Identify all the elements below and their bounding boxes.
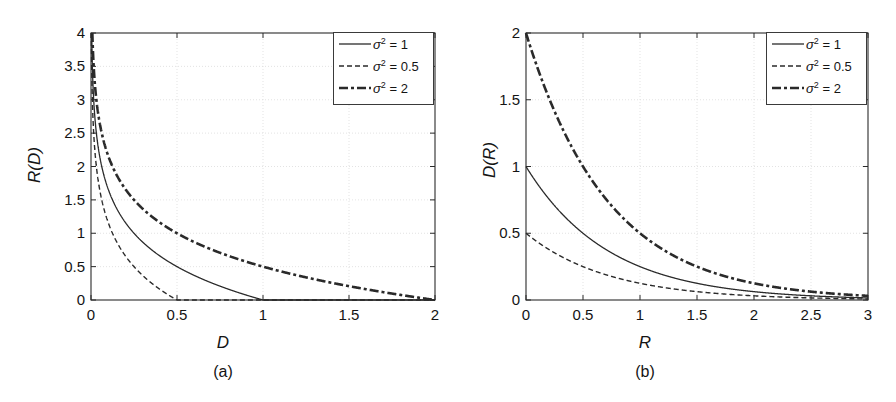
y-tick-label: 1.5 [478, 91, 520, 108]
panel-b: D(R) R (b) σ2 = 1σ2 = 0.5σ2 = 2 00.511.5… [448, 0, 896, 402]
legend-line-swatch [338, 37, 372, 51]
y-axis-label-a: R(D) [25, 125, 45, 205]
legend-value: = 0.5 [819, 59, 852, 74]
sigma-symbol: σ [373, 37, 381, 52]
legend-value: = 1 [386, 37, 408, 52]
legend-value: = 2 [819, 81, 841, 96]
legend-item: σ2 = 2 [334, 77, 433, 99]
legend-label: σ2 = 2 [806, 80, 841, 96]
y-tick-label: 0.5 [478, 224, 520, 241]
x-tick-label: 2.5 [786, 306, 836, 323]
legend-line-swatch [771, 37, 805, 51]
x-axis-label-b: R [605, 333, 685, 353]
legend-item: σ2 = 0.5 [334, 55, 433, 77]
sigma-symbol: σ [373, 81, 381, 96]
x-tick-label: 1 [615, 306, 665, 323]
y-tick-label: 1.5 [43, 191, 85, 208]
legend-value: = 0.5 [386, 59, 419, 74]
legend-label: σ2 = 1 [373, 36, 408, 52]
x-tick-label: 0.5 [558, 306, 608, 323]
legend-value: = 2 [386, 81, 408, 96]
legend-b[interactable]: σ2 = 1σ2 = 0.5σ2 = 2 [766, 32, 867, 105]
rate-distortion-figure: R(D) D (a) σ2 = 1σ2 = 0.5σ2 = 2 00.511.5… [0, 0, 896, 402]
legend-item: σ2 = 0.5 [767, 55, 866, 77]
x-tick-label: 0.5 [152, 306, 202, 323]
y-tick-label: 1 [43, 224, 85, 241]
y-tick-label: 2.5 [43, 124, 85, 141]
x-tick-label: 1 [238, 306, 288, 323]
y-tick-label: 3 [43, 91, 85, 108]
legend-value: = 1 [819, 37, 841, 52]
y-tick-label: 1 [478, 158, 520, 175]
y-tick-label: 0.5 [43, 258, 85, 275]
y-tick-label: 0 [478, 291, 520, 308]
y-tick-label: 4 [43, 24, 85, 41]
legend-label: σ2 = 2 [373, 80, 408, 96]
x-tick-label: 0 [66, 306, 116, 323]
legend-line-swatch [771, 59, 805, 73]
sigma-symbol: σ [806, 37, 814, 52]
y-tick-label: 2 [43, 158, 85, 175]
legend-item: σ2 = 2 [767, 77, 866, 99]
x-tick-label: 2 [729, 306, 779, 323]
sigma-symbol: σ [373, 59, 381, 74]
legend-item: σ2 = 1 [767, 33, 866, 55]
legend-label: σ2 = 1 [806, 36, 841, 52]
x-axis-label-a: D [183, 333, 263, 353]
x-tick-label: 3 [843, 306, 893, 323]
panel-caption-a: (a) [183, 363, 263, 381]
sigma-symbol: σ [806, 81, 814, 96]
panel-a: R(D) D (a) σ2 = 1σ2 = 0.5σ2 = 2 00.511.5… [0, 0, 448, 402]
x-tick-label: 1.5 [324, 306, 374, 323]
x-tick-label: 0 [501, 306, 551, 323]
legend-line-swatch [338, 59, 372, 73]
legend-line-swatch [338, 81, 372, 95]
y-tick-label: 3.5 [43, 57, 85, 74]
legend-line-swatch [771, 81, 805, 95]
legend-a[interactable]: σ2 = 1σ2 = 0.5σ2 = 2 [333, 32, 434, 105]
legend-label: σ2 = 0.5 [373, 58, 419, 74]
x-tick-label: 1.5 [672, 306, 722, 323]
sigma-symbol: σ [806, 59, 814, 74]
legend-label: σ2 = 0.5 [806, 58, 852, 74]
legend-item: σ2 = 1 [334, 33, 433, 55]
y-tick-label: 2 [478, 24, 520, 41]
y-tick-label: 0 [43, 291, 85, 308]
panel-caption-b: (b) [605, 363, 685, 381]
